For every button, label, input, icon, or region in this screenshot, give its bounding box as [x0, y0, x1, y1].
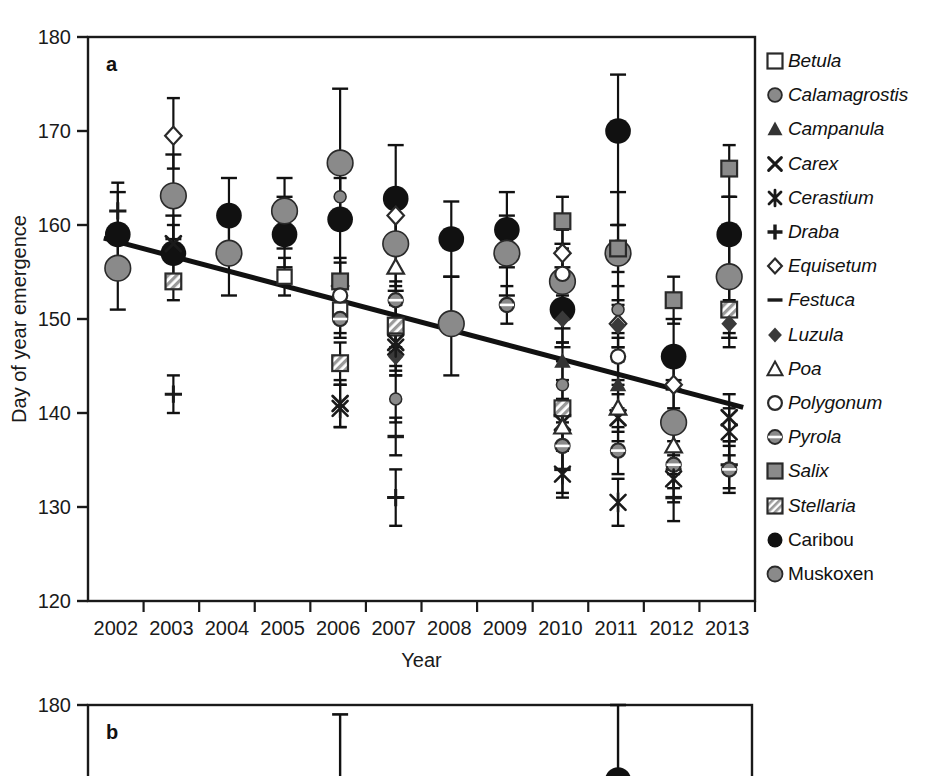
data-point-equisetum: [165, 127, 182, 145]
legend-label: Carex: [788, 153, 838, 175]
data-point-caribou: [272, 222, 298, 248]
data-point-stellaria: [166, 274, 182, 290]
data-point-caribou: [605, 118, 631, 144]
data-point-stellaria: [332, 355, 348, 371]
open-triangle-icon: [762, 357, 788, 381]
data-point-calamagrostis: [612, 304, 624, 316]
data-point-caribou: [661, 344, 687, 370]
legend-item-cerastium[interactable]: Cerastium: [762, 181, 941, 215]
y-axis-tick-label: 180: [38, 26, 71, 48]
hatched-square-icon: [762, 494, 788, 518]
legend-item-polygonum[interactable]: Polygonum: [762, 386, 941, 420]
legend-label: Luzula: [788, 324, 843, 346]
data-point-cerastium: [611, 493, 626, 512]
legend-item-equisetum[interactable]: Equisetum: [762, 249, 941, 283]
y-axis-tick-label: 130: [38, 496, 71, 518]
data-point-draba: [109, 202, 126, 219]
x-axis-tick-label: 2008: [427, 617, 472, 639]
data-point-stellaria: [555, 400, 571, 416]
y-axis-tick-label: 150: [38, 308, 71, 330]
data-point-muskoxen: [161, 183, 187, 209]
data-point-salix: [721, 161, 737, 177]
data-point-poa: [554, 419, 571, 434]
x-axis-tick-label: 2002: [94, 617, 139, 639]
legend-item-draba[interactable]: Draba: [762, 215, 941, 249]
gray-square-icon: [762, 459, 788, 483]
data-point-caribou: [716, 222, 742, 248]
data-point-cerastium: [666, 469, 681, 488]
data-point-polygonum: [333, 288, 347, 302]
plus-icon: [762, 220, 788, 244]
x-axis-tick-label: 2012: [649, 617, 694, 639]
x-axis-tick-label: 2010: [538, 617, 583, 639]
cross-x-icon: [762, 152, 788, 176]
data-point-stellaria: [388, 318, 404, 334]
legend-item-carex[interactable]: Carex: [762, 147, 941, 181]
x-axis-tick-label: 2007: [371, 617, 416, 639]
trend-line: [104, 238, 743, 407]
legend-label: Cerastium: [788, 187, 874, 209]
legend-item-poa[interactable]: Poa: [762, 352, 941, 386]
panel-b-frame: [88, 705, 752, 776]
legend-item-campanula[interactable]: Campanula: [762, 112, 941, 146]
legend-label: Pyrola: [788, 426, 841, 448]
data-point-muskoxen: [216, 240, 242, 266]
data-point-muskoxen: [494, 240, 520, 266]
data-point-equisetum: [554, 244, 571, 262]
legend-item-festuca[interactable]: Festuca: [762, 283, 941, 317]
x-axis-tick-label: 2004: [205, 617, 250, 639]
x-axis-tick-label: 2009: [483, 617, 528, 639]
legend-item-muskoxen[interactable]: Muskoxen: [762, 557, 941, 591]
data-point-muskoxen: [716, 264, 742, 290]
legend-label: Campanula: [788, 118, 884, 140]
figure-container: 1201301401501601701802002200320042005200…: [0, 0, 941, 776]
asterisk-icon: [762, 186, 788, 210]
data-point-muskoxen: [661, 410, 687, 436]
dash-icon: [762, 288, 788, 312]
gray-circle-large-icon: [762, 562, 788, 586]
y-axis-tick-label: 120: [38, 590, 71, 612]
y-axis-tick-label: 170: [38, 120, 71, 142]
legend-label: Polygonum: [788, 392, 882, 414]
legend-label: Draba: [788, 221, 839, 243]
filled-triangle-icon: [762, 117, 788, 141]
data-point-calamagrostis: [390, 393, 402, 405]
panel-b-y-tick-label: 180: [38, 694, 71, 716]
legend-label: Festuca: [788, 289, 855, 311]
data-point-cerastium: [555, 465, 570, 484]
panel-b: 180b: [38, 694, 752, 776]
panel-letter-a: a: [106, 53, 118, 75]
legend-label: Stellaria: [788, 495, 856, 517]
legend-item-calamagrostis[interactable]: Calamagrostis: [762, 78, 941, 112]
legend-label: Caribou: [788, 529, 854, 551]
legend-item-stellaria[interactable]: Stellaria: [762, 488, 941, 522]
x-axis-tick-label: 2013: [705, 617, 750, 639]
legend-label: Salix: [788, 460, 829, 482]
data-point-cerastium: [722, 422, 737, 441]
legend-item-salix[interactable]: Salix: [762, 454, 941, 488]
legend-item-caribou[interactable]: Caribou: [762, 523, 941, 557]
panel-b-data-point: [605, 767, 631, 776]
open-diamond-icon: [762, 254, 788, 278]
y-axis-tick-label: 160: [38, 214, 71, 236]
black-circle-icon: [762, 528, 788, 552]
panel-a-frame: [88, 37, 755, 601]
data-point-caribou: [438, 226, 464, 252]
legend-item-pyrola[interactable]: Pyrola: [762, 420, 941, 454]
data-point-caribou: [105, 222, 131, 248]
x-axis-tick-label: 2006: [316, 617, 361, 639]
legend-item-betula[interactable]: Betula: [762, 44, 941, 78]
data-point-muskoxen: [327, 150, 353, 176]
open-circle-icon: [762, 391, 788, 415]
circle-hline-icon: [762, 425, 788, 449]
x-axis-tick-label: 2011: [595, 617, 638, 639]
data-point-caribou: [494, 217, 520, 243]
data-point-muskoxen: [383, 231, 409, 257]
data-point-salix: [610, 241, 626, 257]
x-axis-tick-label: 2005: [260, 617, 305, 639]
gray-circle-icon: [762, 83, 788, 107]
data-point-muskoxen: [105, 255, 131, 281]
legend-item-luzula[interactable]: Luzula: [762, 318, 941, 352]
data-point-draba: [387, 489, 404, 506]
legend-label: Betula: [788, 50, 841, 72]
